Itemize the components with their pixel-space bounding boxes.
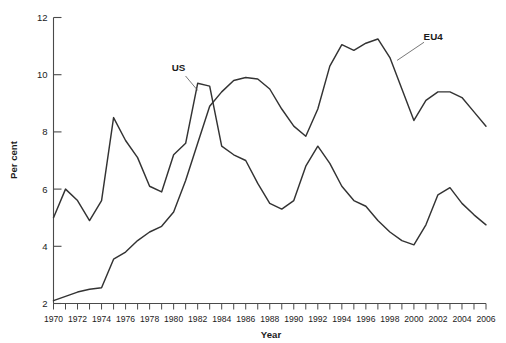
x-tick-label: 1988 xyxy=(260,314,279,324)
y-tick-label: 6 xyxy=(42,184,47,195)
x-tick-label: 1982 xyxy=(188,314,207,324)
series-label-us: US xyxy=(172,62,186,73)
x-tick-label: 1974 xyxy=(92,314,111,324)
y-tick-label: 10 xyxy=(37,69,48,80)
x-axis-tick-labels: 1970197219741976197819801982198419861988… xyxy=(44,314,496,324)
x-tick-label: 2006 xyxy=(476,314,495,324)
x-tick-label: 1990 xyxy=(284,314,303,324)
y-tick-label: 4 xyxy=(42,241,47,252)
x-tick-label: 1976 xyxy=(116,314,135,324)
x-tick-label: 2004 xyxy=(452,314,471,324)
series-group xyxy=(54,39,487,301)
x-tick-label: 1996 xyxy=(356,314,375,324)
line-chart: 24681012 1970197219741976197819801982198… xyxy=(0,0,506,343)
x-tick-label: 1998 xyxy=(380,314,399,324)
x-tick-label: 2002 xyxy=(428,314,447,324)
x-tick-label: 1992 xyxy=(308,314,327,324)
x-axis-minor-ticks xyxy=(54,304,487,310)
x-tick-label: 1984 xyxy=(212,314,231,324)
chart-canvas: 24681012 1970197219741976197819801982198… xyxy=(0,0,506,343)
x-tick-label: 1970 xyxy=(44,314,63,324)
x-tick-label: 1980 xyxy=(164,314,183,324)
x-axis-title: Year xyxy=(261,329,282,340)
x-tick-label: 1994 xyxy=(332,314,351,324)
leader-line-us xyxy=(186,76,198,90)
leader-line-eu4 xyxy=(397,42,424,60)
x-tick-label: 1986 xyxy=(236,314,255,324)
y-axis-ticks xyxy=(54,18,62,304)
y-axis-tick-labels: 24681012 xyxy=(37,12,48,309)
y-tick-label: 12 xyxy=(37,12,48,23)
x-tick-label: 1972 xyxy=(68,314,87,324)
x-tick-label: 2000 xyxy=(404,314,423,324)
y-axis-title: Per cent xyxy=(8,140,19,179)
y-tick-label: 8 xyxy=(42,126,47,137)
series-labels: USEU4 xyxy=(172,31,444,91)
series-line-eu4 xyxy=(54,39,487,301)
y-tick-label: 2 xyxy=(42,298,47,309)
x-tick-label: 1978 xyxy=(140,314,159,324)
series-label-eu4: EU4 xyxy=(424,31,444,42)
